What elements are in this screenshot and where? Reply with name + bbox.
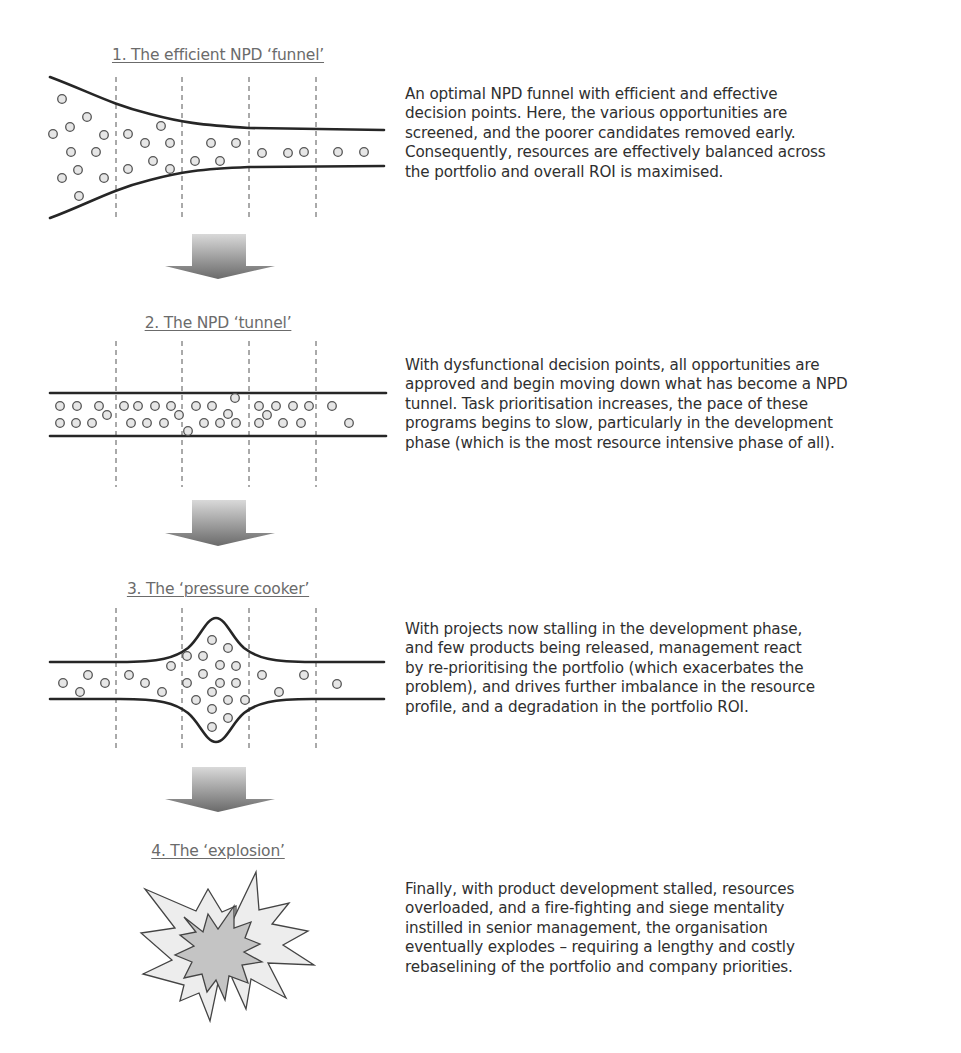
description-line: profile, and a degradation in the portfo… [405,698,815,717]
description-line: screened, and the poorer candidates remo… [405,124,826,143]
description-line: With dysfunctional decision points, all … [405,356,847,375]
opportunity-dots [56,394,354,436]
description-line: problem), and drives further imbalance i… [405,678,815,697]
stage-description-tunnel: With dysfunctional decision points, all … [405,356,847,453]
stage-title-explosion: 4. The ‘explosion’ [151,842,284,860]
description-line: rebaselining of the portfolio and compan… [405,958,795,977]
starburst-icon [141,872,314,1021]
down-arrow-icon [165,500,275,546]
stage-description-explosion: Finally, with product development stalle… [405,880,795,977]
description-line: by re-prioritising the portfolio (which … [405,659,815,678]
description-line: programs begins to slow, particularly in… [405,414,847,433]
description-line: tunnel. Task prioritisation increases, t… [405,395,847,414]
description-line: eventually explodes – requiring a length… [405,938,795,957]
description-line: approved and begin moving down what has … [405,375,847,394]
tunnel-diagram [50,341,386,487]
funnel-bottom-rail [50,166,384,218]
stage-title-funnel: 1. The efficient NPD ‘funnel’ [112,46,324,64]
stage-description-funnel: An optimal NPD funnel with efficient and… [405,85,826,182]
pressure-top-rail [50,618,384,662]
stage-title-pressure-cooker: 3. The ‘pressure cooker’ [127,580,309,598]
description-line: overloaded, and a fire-fighting and sieg… [405,899,795,918]
pressure-bottom-rail [50,699,384,742]
opportunity-dots [59,636,342,732]
description-line: instilled in senior management, the orga… [405,919,795,938]
description-line: An optimal NPD funnel with efficient and… [405,85,826,104]
description-line: the portfolio and overall ROI is maximis… [405,163,826,182]
pressure-cooker-diagram [50,608,384,752]
description-line: With projects now stalling in the develo… [405,620,815,639]
opportunity-dots [49,95,369,201]
description-line: Finally, with product development stalle… [405,880,795,899]
stage-description-pressure-cooker: With projects now stalling in the develo… [405,620,815,717]
stage-title-tunnel: 2. The NPD ‘tunnel’ [145,314,292,332]
funnel-top-rail [50,77,384,130]
description-line: and few products being released, managem… [405,639,815,658]
down-arrow-icon [165,234,275,279]
description-line: Consequently, resources are effectively … [405,143,826,162]
funnel-diagram [49,77,384,218]
description-line: phase (which is the most resource intens… [405,434,847,453]
down-arrow-icon [165,767,275,812]
description-line: decision points. Here, the various oppor… [405,104,826,123]
decision-gates [116,341,316,487]
